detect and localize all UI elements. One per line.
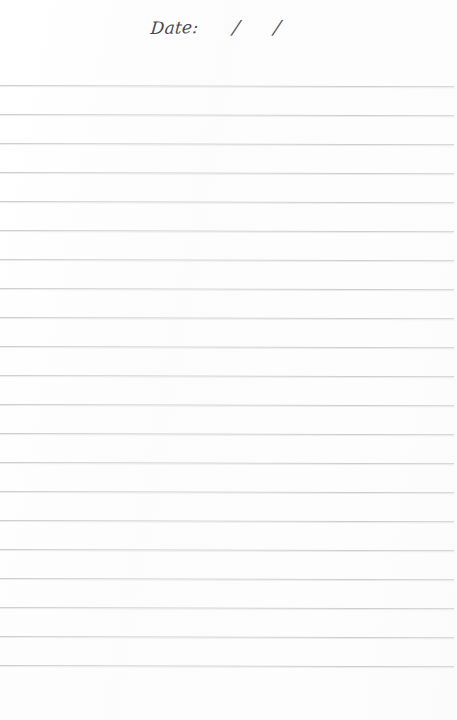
notebook-page: Date: / /: [0, 0, 457, 720]
ruled-line: [0, 520, 454, 522]
ruled-line: [0, 607, 454, 609]
ruled-line: [0, 636, 454, 638]
ruled-line: [0, 317, 454, 319]
ruled-line: [0, 143, 454, 145]
ruled-line: [0, 665, 454, 667]
ruled-line: [0, 462, 454, 464]
ruled-line: [0, 114, 454, 116]
ruled-line: [0, 259, 454, 261]
ruled-line: [0, 346, 454, 348]
ruled-line: [0, 404, 454, 406]
ruled-line: [0, 491, 454, 493]
ruled-line: [0, 230, 454, 232]
ruled-line: [0, 172, 454, 174]
ruled-line: [0, 549, 454, 551]
ruled-line: [0, 375, 454, 377]
ruled-line: [0, 288, 454, 290]
ruled-line: [0, 433, 454, 435]
ruled-lines: [0, 0, 457, 720]
ruled-line: [0, 578, 454, 580]
ruled-line: [0, 201, 454, 203]
ruled-line: [0, 85, 454, 87]
